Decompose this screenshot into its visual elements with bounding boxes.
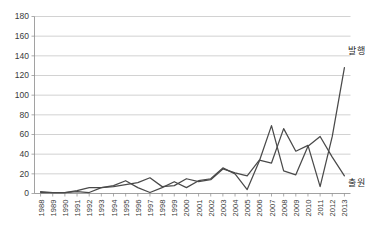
x-tick-label: 2002 [207, 200, 216, 217]
series-label-2: 출원 [348, 178, 366, 188]
x-tick-label: 1997 [146, 200, 155, 217]
x-tick-label: 1990 [61, 200, 70, 217]
x-tick-label: 2004 [231, 200, 240, 217]
series-labels: 발행출원 [348, 45, 366, 188]
y-tick-label: 80 [20, 110, 30, 120]
x-tick-label: 1995 [122, 200, 131, 217]
y-tick-label: 160 [15, 31, 29, 41]
y-tick-label: 60 [20, 129, 30, 139]
line-chart: 020406080100120140160180 198819891990199… [0, 0, 391, 233]
y-axis-tick-labels: 020406080100120140160180 [15, 11, 29, 198]
x-tick-label: 2008 [280, 200, 289, 217]
x-tick-label: 2012 [328, 200, 337, 217]
x-tick-label: 2011 [316, 200, 325, 216]
chart-canvas: 020406080100120140160180 198819891990199… [0, 0, 391, 233]
x-tick-label: 1991 [73, 200, 82, 217]
x-tick-label: 2009 [292, 200, 301, 217]
x-tick-label: 2013 [340, 200, 349, 217]
series-line-2 [41, 126, 345, 193]
y-axis-ticks [32, 17, 35, 194]
y-tick-label: 140 [15, 51, 29, 61]
y-tick-label: 20 [20, 169, 30, 179]
y-tick-label: 180 [15, 11, 29, 21]
x-tick-label: 1996 [134, 200, 143, 217]
x-tick-label: 1998 [158, 200, 167, 217]
y-tick-label: 40 [20, 149, 30, 159]
x-axis-ticks [41, 194, 345, 197]
x-tick-label: 2006 [255, 200, 264, 217]
x-tick-label: 1993 [97, 200, 106, 217]
x-tick-label: 1994 [110, 200, 119, 217]
x-tick-label: 2005 [243, 200, 252, 217]
y-tick-label: 0 [24, 188, 29, 198]
gridlines [35, 17, 351, 174]
x-axis-tick-labels: 1988198919901991199219931994199519961997… [37, 200, 350, 217]
x-tick-label: 1999 [170, 200, 179, 217]
x-tick-label: 2000 [182, 200, 191, 217]
x-tick-label: 2003 [219, 200, 228, 217]
y-tick-label: 100 [15, 90, 29, 100]
x-tick-label: 2001 [195, 200, 204, 217]
x-tick-label: 2007 [268, 200, 277, 217]
y-tick-label: 120 [15, 70, 29, 80]
x-tick-label: 1989 [49, 200, 58, 217]
series-label-1: 발행 [348, 45, 366, 56]
x-tick-label: 2010 [304, 200, 313, 217]
x-tick-label: 1992 [85, 200, 94, 217]
x-tick-label: 1988 [37, 200, 46, 217]
